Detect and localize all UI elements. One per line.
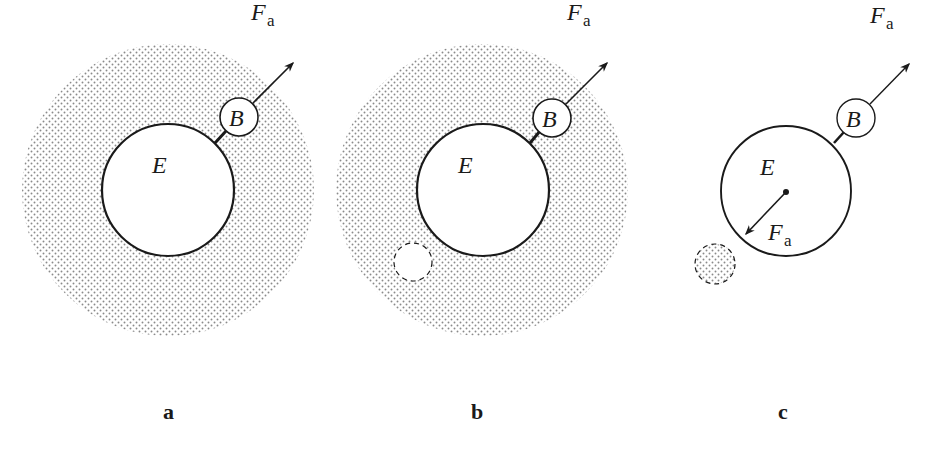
panel-label: a xyxy=(163,399,174,424)
svg-text:a: a xyxy=(886,14,894,33)
dashed-hole xyxy=(394,243,432,281)
small-body-label: B xyxy=(542,106,557,132)
small-body-label: B xyxy=(846,106,861,132)
panel-b: E B F a b xyxy=(336,0,628,424)
svg-text:F: F xyxy=(767,219,783,245)
svg-text:F: F xyxy=(250,0,266,25)
stippled-fragment xyxy=(695,244,735,284)
force-label: F a xyxy=(250,0,275,30)
svg-text:F: F xyxy=(566,0,582,25)
large-body-label: E xyxy=(759,154,775,180)
svg-text:a: a xyxy=(267,11,275,30)
svg-text:a: a xyxy=(583,11,591,30)
physics-diagram: E B F a a E B F a b E xyxy=(0,0,933,460)
force-arrow xyxy=(870,64,909,104)
svg-text:F: F xyxy=(869,2,885,28)
small-body-label: B xyxy=(229,105,244,131)
large-body-e xyxy=(102,124,234,256)
force-label: F a xyxy=(566,0,591,30)
panel-label: c xyxy=(778,399,788,424)
svg-text:a: a xyxy=(784,231,792,250)
panel-c: E F a B F a c xyxy=(695,2,909,424)
large-body-label: E xyxy=(457,152,473,178)
large-body-e xyxy=(417,124,549,256)
panel-label: b xyxy=(471,399,483,424)
large-body-label: E xyxy=(151,152,167,178)
force-label: F a xyxy=(869,2,894,33)
panel-a: E B F a a xyxy=(22,0,314,424)
connector-stem xyxy=(834,132,844,143)
